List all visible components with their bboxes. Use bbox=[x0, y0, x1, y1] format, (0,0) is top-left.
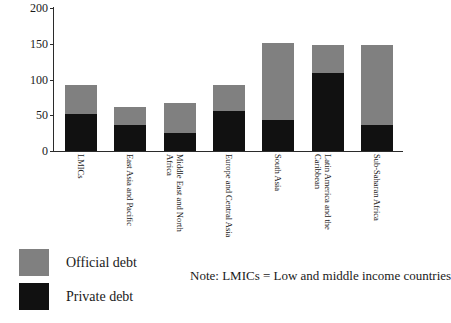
bar-segment-official-6 bbox=[361, 45, 393, 124]
x-axis-label-1: East Asia and Pacific bbox=[125, 154, 135, 254]
bar-segment-private-1 bbox=[114, 125, 146, 151]
bar-segment-private-2 bbox=[164, 133, 196, 151]
y-tick-label-200: 200 bbox=[0, 2, 48, 14]
plot-area bbox=[54, 8, 400, 151]
x-axis-label-2: Middle East and North Africa bbox=[165, 154, 184, 254]
legend-item-official: Official debt bbox=[19, 249, 219, 283]
bar-0 bbox=[65, 85, 97, 151]
bar-segment-official-3 bbox=[213, 85, 245, 111]
y-tick-label-150: 150 bbox=[0, 38, 48, 50]
bar-segment-official-2 bbox=[164, 103, 196, 133]
chart-note: Note: LMICs = Low and middle income coun… bbox=[190, 268, 451, 283]
chart-legend: Official debt Private debt bbox=[19, 249, 219, 317]
x-axis-label-4: South Asia bbox=[273, 154, 283, 254]
bar-1 bbox=[114, 107, 146, 151]
y-tick-mark-0 bbox=[50, 151, 54, 152]
legend-label-private: Private debt bbox=[66, 289, 133, 305]
legend-label-official: Official debt bbox=[66, 255, 137, 271]
y-tick-label-50: 50 bbox=[0, 109, 48, 121]
bar-segment-official-4 bbox=[262, 43, 294, 120]
bar-segment-private-3 bbox=[213, 111, 245, 151]
x-axis-label-0: LMICs bbox=[76, 154, 86, 254]
legend-swatch-official-icon bbox=[19, 249, 49, 276]
x-axis-label-6: Sub-Saharan Africa bbox=[372, 154, 382, 254]
legend-item-private: Private debt bbox=[19, 283, 219, 317]
x-axis-line bbox=[53, 151, 403, 152]
bar-segment-official-1 bbox=[114, 107, 146, 124]
bar-4 bbox=[262, 43, 294, 151]
bar-segment-private-0 bbox=[65, 114, 97, 151]
bar-segment-private-6 bbox=[361, 125, 393, 151]
bar-segment-private-4 bbox=[262, 120, 294, 151]
x-axis-labels: LMICsEast Asia and PacificMiddle East an… bbox=[54, 154, 400, 254]
x-axis-label-3: Europe and Central Asia bbox=[224, 154, 234, 254]
bar-segment-official-0 bbox=[65, 85, 97, 114]
bar-6 bbox=[361, 45, 393, 151]
y-tick-label-100: 100 bbox=[0, 74, 48, 86]
bar-segment-private-5 bbox=[312, 73, 344, 151]
bar-5 bbox=[312, 45, 344, 151]
bar-3 bbox=[213, 85, 245, 151]
x-axis-label-5: Latin America and the Caribbean bbox=[313, 154, 332, 254]
y-tick-label-0: 0 bbox=[0, 145, 48, 157]
bar-segment-official-5 bbox=[312, 45, 344, 73]
bar-2 bbox=[164, 103, 196, 151]
legend-swatch-private-icon bbox=[19, 283, 49, 310]
